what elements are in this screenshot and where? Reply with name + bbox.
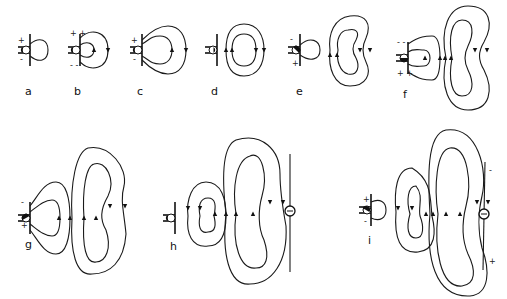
panel-c: + - c — [130, 26, 188, 98]
panel-i: + - - + i — [359, 130, 496, 296]
charge-bottom: + — [292, 59, 299, 68]
panel-label: i — [368, 234, 371, 247]
charge-bottom: - — [364, 217, 367, 226]
panel-label: e — [296, 85, 303, 98]
panel-label: f — [403, 88, 408, 101]
charge-top: + — [18, 36, 25, 45]
charge-top: - — [290, 35, 293, 44]
panel-a: + - a — [18, 34, 48, 98]
panel-b: + + - - b — [68, 29, 110, 98]
charge-top: + — [131, 36, 138, 45]
charge-bottom: - — [20, 55, 23, 64]
panel-d: d — [205, 24, 266, 98]
charge-bottom: - - — [70, 61, 78, 70]
receiver-charge-bottom: + — [489, 257, 496, 266]
panel-label: g — [25, 238, 32, 251]
charge-top: - - — [397, 38, 405, 47]
charge-top: + — [363, 195, 370, 204]
antenna-icon — [205, 34, 217, 66]
panel-label: c — [137, 85, 143, 98]
receiver-charge-top: - — [489, 166, 492, 175]
dipole-radiation-diagram: + - a + + - - b + - c d — [0, 0, 507, 299]
panel-f: - - + + f — [396, 6, 489, 110]
panel-label: b — [74, 85, 81, 98]
panel-g: - + g — [18, 148, 127, 275]
charge-bottom: - — [133, 55, 136, 64]
charge-top: + + — [70, 29, 86, 38]
panel-label: h — [170, 240, 177, 253]
charge-bottom: + + — [397, 69, 413, 78]
panel-h: h — [163, 138, 295, 284]
charge-top: - — [21, 198, 24, 207]
antenna-icon — [163, 202, 175, 234]
panel-label: a — [25, 85, 32, 98]
charge-bottom: + — [21, 221, 28, 230]
panel-e: - + e — [288, 16, 372, 98]
panel-label: d — [211, 85, 218, 98]
